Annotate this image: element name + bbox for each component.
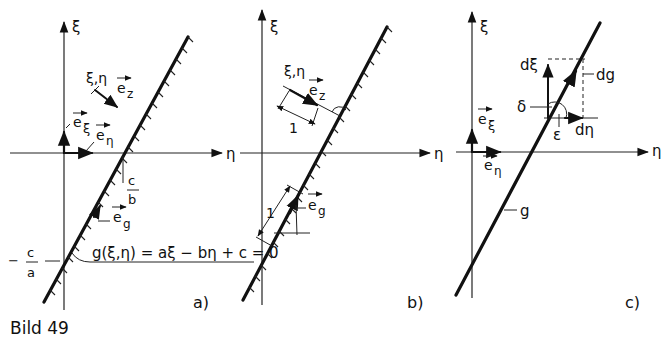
label-e-xi: e ξ bbox=[478, 109, 495, 133]
svg-text:z: z bbox=[127, 87, 133, 101]
panel-b: ξ η bbox=[240, 10, 444, 312]
svg-text:b: b bbox=[128, 192, 136, 207]
figure-canvas: ξ η bbox=[0, 0, 667, 340]
svg-text:e: e bbox=[96, 127, 105, 143]
xi-axis-label: ξ bbox=[270, 18, 278, 36]
panel-c-label: c) bbox=[625, 293, 640, 312]
svg-text:η: η bbox=[494, 164, 502, 178]
leader-e-eta bbox=[86, 142, 94, 151]
svg-text:ξ: ξ bbox=[83, 121, 90, 136]
label-e-eta: e η bbox=[483, 156, 502, 178]
figure-caption: Bild 49 bbox=[10, 318, 69, 338]
svg-text:c: c bbox=[128, 173, 135, 188]
point-label: ξ,η bbox=[284, 63, 305, 79]
dg-label: dg bbox=[596, 66, 615, 84]
svg-text:g: g bbox=[123, 217, 131, 231]
svg-text:e: e bbox=[478, 111, 487, 127]
panel-a-label: a) bbox=[193, 293, 209, 312]
dim-ext-1 bbox=[278, 91, 289, 109]
svg-text:c: c bbox=[27, 245, 34, 260]
vector-e-z bbox=[95, 90, 117, 107]
panel-c: ξ η e ξ e η dξ dg δ ε dη g bbox=[456, 12, 662, 312]
unit-length-label-2: 1 bbox=[266, 205, 275, 221]
eta-axis-label: η bbox=[434, 145, 444, 163]
delta-label: δ bbox=[517, 98, 526, 116]
svg-text:a: a bbox=[27, 265, 35, 280]
label-e-z: e z bbox=[309, 80, 325, 103]
panel-b-label: b) bbox=[407, 293, 423, 312]
svg-text:g: g bbox=[318, 204, 326, 218]
svg-text:z: z bbox=[319, 89, 325, 103]
leader-e-xi bbox=[66, 124, 70, 128]
label-e-z: e z bbox=[117, 78, 133, 101]
svg-text:e: e bbox=[113, 209, 122, 225]
svg-text:η: η bbox=[106, 134, 114, 148]
g-label: g bbox=[520, 202, 530, 220]
label-e-g: e g bbox=[308, 194, 326, 218]
svg-text:e: e bbox=[309, 82, 318, 98]
unit-length-label: 1 bbox=[289, 120, 298, 136]
intercept-eta-label: c b bbox=[127, 173, 139, 207]
equation: g(ξ,η) = aξ − bη + c = 0 bbox=[92, 244, 279, 262]
svg-text:ξ: ξ bbox=[488, 118, 495, 133]
label-e-eta: e η bbox=[96, 125, 114, 148]
label-e-g: e g bbox=[112, 207, 131, 231]
eta-axis-label: η bbox=[652, 142, 662, 160]
intercept-xi-label: − c a bbox=[8, 245, 38, 280]
svg-text:e: e bbox=[308, 197, 317, 213]
eg-vertical-guide bbox=[296, 205, 297, 235]
xi-axis-label: ξ bbox=[72, 18, 80, 36]
d-xi-label: dξ bbox=[520, 56, 538, 74]
panel-a: ξ η bbox=[8, 18, 279, 338]
svg-text:−: − bbox=[8, 253, 19, 268]
epsilon-label: ε bbox=[553, 126, 561, 144]
xi-axis-label: ξ bbox=[480, 18, 488, 36]
svg-text:e: e bbox=[117, 80, 126, 96]
svg-text:e: e bbox=[73, 114, 82, 130]
point-label: ξ,η bbox=[86, 70, 107, 86]
d-eta-label: dη bbox=[575, 121, 594, 139]
eta-axis-label: η bbox=[226, 145, 236, 163]
label-e-xi: e ξ bbox=[73, 113, 90, 136]
svg-text:e: e bbox=[484, 157, 493, 173]
